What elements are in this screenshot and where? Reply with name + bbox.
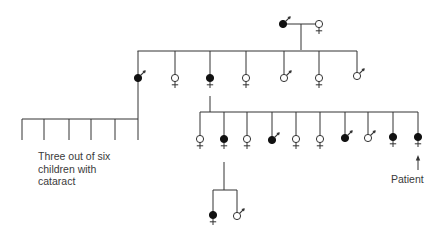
gen3-1-unaffected-female-icon bbox=[196, 135, 203, 149]
gen4-1-affected-female-icon bbox=[209, 211, 216, 225]
pedigree-diagram bbox=[0, 0, 442, 236]
gen3-2-affected-female-icon bbox=[220, 135, 227, 149]
proband-label: Patient bbox=[391, 173, 424, 186]
gen1-father-affected-male-icon bbox=[279, 16, 290, 27]
note-line-3: cataract bbox=[38, 175, 148, 188]
gen4-2-unaffected-male-icon bbox=[233, 208, 244, 219]
gen2-3-affected-female-icon bbox=[206, 74, 213, 88]
gen3-4-affected-male-icon bbox=[268, 132, 279, 143]
gen3-6-unaffected-female-icon bbox=[316, 135, 323, 149]
gen2-1-affected-male-icon bbox=[134, 70, 145, 81]
proband-arrow-icon bbox=[416, 155, 420, 161]
gen3-9-affected-female-icon bbox=[389, 133, 396, 147]
gen3-10-proband-affected-female-icon bbox=[414, 133, 421, 147]
gen3-5-unaffected-female-icon bbox=[292, 135, 299, 149]
gen3-3-unaffected-female-icon bbox=[243, 135, 250, 149]
note-line-1: Three out of six bbox=[38, 150, 148, 163]
gen2-7-unaffected-male-icon bbox=[353, 68, 364, 79]
gen2-4-unaffected-female-icon bbox=[242, 74, 249, 88]
gen2-5-unaffected-male-icon bbox=[280, 70, 291, 81]
gen2-6-unaffected-female-icon bbox=[315, 74, 322, 88]
note-line-2: children with bbox=[38, 163, 148, 176]
sibship-note: Three out of six children with cataract bbox=[38, 150, 148, 188]
gen2-2-unaffected-female-icon bbox=[171, 74, 178, 88]
gen3-8-unaffected-male-icon bbox=[364, 130, 375, 141]
gen3-7-affected-male-icon bbox=[341, 130, 352, 141]
gen1-mother-unaffected-female-icon bbox=[315, 20, 322, 34]
